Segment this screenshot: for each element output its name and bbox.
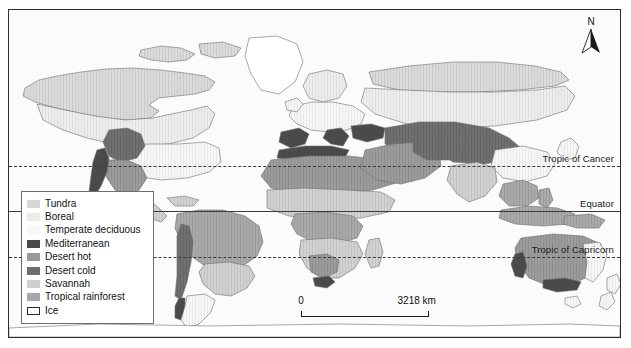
legend-swatch-mediterranean xyxy=(27,240,40,248)
scale-bar-min-label: 0 xyxy=(298,295,304,306)
north-arrow: N xyxy=(580,16,602,56)
legend-item-desert-cold: Desert cold xyxy=(27,264,147,277)
legend-label-tropical-rainforest: Tropical rainforest xyxy=(45,291,125,303)
legend-label-desert-cold: Desert cold xyxy=(45,265,96,277)
legend-item-savannah: Savannah xyxy=(27,277,147,290)
legend-label-desert-hot: Desert hot xyxy=(45,251,91,263)
legend-swatch-tundra xyxy=(27,200,40,208)
legend-label-ice: Ice xyxy=(45,305,58,317)
scale-bar: 0 3218 km xyxy=(301,295,429,323)
tropic-of-cancer-label: Tropic of Cancer xyxy=(543,153,614,164)
scale-bar-max-label: 3218 km xyxy=(398,295,436,306)
legend-item-mediterranean: Mediterranean xyxy=(27,237,147,250)
legend-item-temperate-deciduous: Temperate deciduous xyxy=(27,224,147,237)
map-frame: Tropic of Cancer Equator Tropic of Capri… xyxy=(8,9,621,338)
legend-item-tundra: Tundra xyxy=(27,197,147,210)
legend-item-desert-hot: Desert hot xyxy=(27,251,147,264)
legend-item-ice: Ice xyxy=(27,304,147,317)
tropic-of-capricorn-label: Tropic of Capricorn xyxy=(532,244,614,255)
legend-label-savannah: Savannah xyxy=(45,278,90,290)
world-biomes-map-figure: Tropic of Cancer Equator Tropic of Capri… xyxy=(0,0,631,348)
legend-item-tropical-rainforest: Tropical rainforest xyxy=(27,291,147,304)
legend-swatch-savannah xyxy=(27,280,40,288)
north-arrow-icon xyxy=(580,28,602,54)
legend-swatch-boreal xyxy=(27,213,40,221)
region-antarctic-fringe-ice xyxy=(9,324,620,337)
map-legend: Tundra Boreal Temperate deciduous Medite… xyxy=(21,191,154,324)
scale-bar-labels: 0 3218 km xyxy=(301,295,429,309)
legend-swatch-temperate-deciduous xyxy=(27,226,40,234)
north-arrow-label: N xyxy=(580,16,602,28)
legend-label-tundra: Tundra xyxy=(45,198,76,210)
legend-label-temperate-deciduous: Temperate deciduous xyxy=(45,224,141,236)
legend-swatch-desert-hot xyxy=(27,253,40,261)
legend-swatch-tropical-rainforest xyxy=(27,293,40,301)
scale-bar-rule xyxy=(301,311,429,317)
legend-item-boreal: Boreal xyxy=(27,210,147,223)
legend-swatch-ice xyxy=(27,307,40,315)
legend-swatch-desert-cold xyxy=(27,267,40,275)
legend-label-boreal: Boreal xyxy=(45,211,74,223)
equator-label: Equator xyxy=(580,198,614,209)
legend-label-mediterranean: Mediterranean xyxy=(45,238,109,250)
